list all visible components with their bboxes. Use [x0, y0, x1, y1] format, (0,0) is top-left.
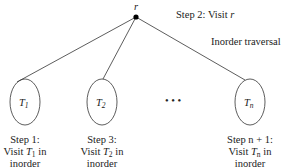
root-step-label: Step 2: Visit r [176, 9, 235, 20]
subtree-Tn-caption: Step n + 1: Visit Tn in inorder [227, 134, 273, 168]
ellipsis: • • • [165, 95, 182, 106]
traversal-title: Inorder traversal [211, 36, 281, 47]
root-node [133, 14, 138, 19]
inorder-traversal-diagram: r Step 2: Visit r Inorder traversal T1 S… [0, 0, 283, 168]
svg-text:inorder: inorder [87, 158, 118, 168]
root-label: r [134, 1, 139, 12]
diagram-svg: r Step 2: Visit r Inorder traversal T1 S… [0, 0, 283, 168]
subtree-T1-label: T1 [19, 97, 29, 110]
svg-text:inorder: inorder [235, 158, 266, 168]
subtree-Tn-label: Tn [244, 97, 254, 110]
edge-r-T1 [17, 17, 136, 82]
svg-text:Step n + 1:: Step n + 1: [227, 134, 273, 145]
subtree-T1-caption: Step 1: Visit T1 in inorder [4, 134, 48, 168]
svg-text:Step 1:: Step 1: [10, 134, 40, 145]
svg-text:inorder: inorder [10, 158, 41, 168]
edge-r-Tn [136, 17, 245, 80]
subtree-T2-caption: Step 3: Visit T2 in inorder [81, 134, 125, 168]
subtree-T2-label: T2 [96, 97, 106, 110]
svg-text:Step 3:: Step 3: [87, 134, 117, 145]
